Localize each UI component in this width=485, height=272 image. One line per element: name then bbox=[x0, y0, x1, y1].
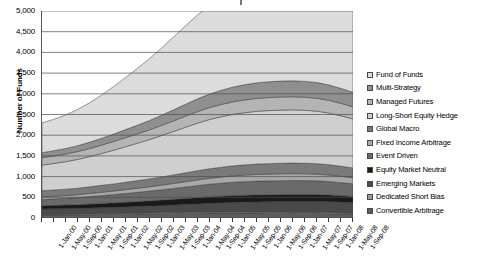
legend-item[interactable]: Equity Market Neutral bbox=[367, 163, 485, 177]
y-tick-label: 1,500 bbox=[1, 152, 35, 160]
legend-label: Fund of Funds bbox=[376, 71, 423, 79]
y-tick-label: 3,000 bbox=[1, 90, 35, 98]
legend-item[interactable]: Fixed Income Arbitrage bbox=[367, 136, 485, 150]
y-tick-label: 500 bbox=[1, 193, 35, 201]
legend-label: Global Macro bbox=[376, 125, 419, 133]
y-tick-label: 2,000 bbox=[1, 131, 35, 139]
legend-label: Long-Short Equity Hedge bbox=[376, 112, 458, 120]
legend-item[interactable]: Convertible Arbitrage bbox=[367, 204, 485, 218]
y-tick-label: 1,000 bbox=[1, 173, 35, 181]
legend-swatch-icon bbox=[367, 113, 373, 119]
legend-label: Convertible Arbitrage bbox=[376, 207, 444, 215]
legend-swatch-icon bbox=[367, 153, 373, 159]
chart-legend: Fund of FundsMulti-StrategyManaged Futur… bbox=[367, 68, 485, 218]
legend-swatch-icon bbox=[367, 85, 373, 91]
legend-item[interactable]: Global Macro bbox=[367, 122, 485, 136]
legend-label: Dedicated Short Bias bbox=[376, 193, 444, 201]
legend-swatch-icon bbox=[367, 72, 373, 78]
legend-swatch-icon bbox=[367, 126, 373, 132]
legend-item[interactable]: Fund of Funds bbox=[367, 68, 485, 82]
legend-swatch-icon bbox=[367, 167, 373, 173]
y-tick-label: 4,000 bbox=[1, 48, 35, 56]
legend-item[interactable]: Event Driven bbox=[367, 150, 485, 164]
legend-label: Event Driven bbox=[376, 152, 418, 160]
plot-area bbox=[41, 11, 352, 218]
legend-item[interactable]: Dedicated Short Bias bbox=[367, 190, 485, 204]
legend-item[interactable]: Multi-Strategy bbox=[367, 82, 485, 96]
legend-swatch-icon bbox=[367, 194, 373, 200]
legend-swatch-icon bbox=[367, 181, 373, 187]
legend-label: Equity Market Neutral bbox=[376, 166, 446, 174]
legend-label: Multi-Strategy bbox=[376, 84, 421, 92]
legend-label: Managed Futures bbox=[376, 98, 433, 106]
legend-item[interactable]: Managed Futures bbox=[367, 95, 485, 109]
legend-swatch-icon bbox=[367, 140, 373, 146]
y-tick-label: 3,500 bbox=[1, 69, 35, 77]
legend-item[interactable]: Emerging Markets bbox=[367, 177, 485, 191]
y-tick-label: 4,500 bbox=[1, 28, 35, 36]
y-tick-label: 5,000 bbox=[1, 7, 35, 15]
legend-swatch-icon bbox=[367, 208, 373, 214]
legend-item[interactable]: Long-Short Equity Hedge bbox=[367, 109, 485, 123]
chart-root: Number of Funds 5,0004,5004,0003,5003,00… bbox=[0, 0, 485, 272]
y-tick-label: 2,500 bbox=[1, 111, 35, 119]
legend-label: Emerging Markets bbox=[376, 180, 435, 188]
legend-swatch-icon bbox=[367, 99, 373, 105]
x-axis-tick-labels: 1-Jan-001-May-001-Sep-001-Jan-011-May-01… bbox=[0, 218, 485, 272]
legend-label: Fixed Income Arbitrage bbox=[376, 139, 451, 147]
stacked-area-svg bbox=[42, 11, 353, 218]
title-sliver bbox=[240, 0, 242, 5]
